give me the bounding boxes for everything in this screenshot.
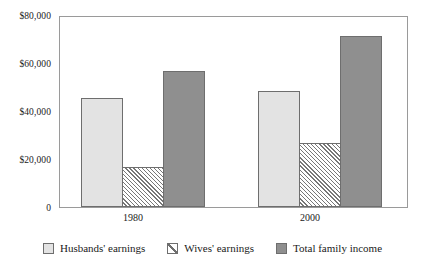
- x-tick-label-2000: 2000: [280, 212, 340, 223]
- legend-label-total-family-income: Total family income: [293, 242, 382, 254]
- bar-2000-wives-earnings: [299, 143, 341, 207]
- bar-2000-total-family-income: [340, 36, 382, 207]
- legend-label-wives-earnings: Wives' earnings: [184, 242, 254, 254]
- bar-1980-total-family-income: [163, 71, 205, 207]
- legend-swatch-light-icon: [43, 243, 54, 254]
- legend-swatch-dark-icon: [276, 243, 287, 254]
- legend-item-wives-earnings: Wives' earnings: [167, 242, 254, 254]
- bar-2000-husbands-earnings: [258, 91, 300, 207]
- bar-1980-husbands-earnings: [81, 98, 123, 207]
- legend-item-husbands-earnings: Husbands' earnings: [43, 242, 145, 254]
- x-tick-label-1980: 1980: [103, 212, 163, 223]
- y-tick-label-60000: $60,000: [19, 59, 51, 69]
- y-axis: $80,000 $60,000 $40,000 $20,000 0: [0, 0, 59, 220]
- plot-area: [59, 16, 408, 208]
- legend-swatch-hatch-icon: [167, 243, 178, 254]
- bar-chart: $80,000 $60,000 $40,000 $20,000 0 1980 2…: [0, 0, 425, 267]
- y-tick-label-40000: $40,000: [19, 107, 51, 117]
- y-tick-label-0: 0: [46, 203, 51, 213]
- legend-label-husbands-earnings: Husbands' earnings: [60, 242, 145, 254]
- bar-1980-wives-earnings: [122, 167, 164, 207]
- chart-legend: Husbands' earnings Wives' earnings Total…: [0, 236, 425, 260]
- y-tick-label-80000: $80,000: [19, 11, 51, 21]
- y-tick-label-20000: $20,000: [19, 155, 51, 165]
- legend-item-total-family-income: Total family income: [276, 242, 382, 254]
